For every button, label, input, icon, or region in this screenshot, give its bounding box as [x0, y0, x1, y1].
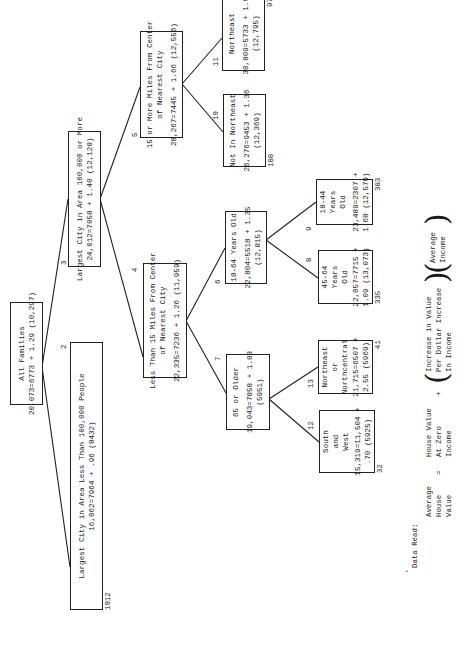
node-4-under-15-miles: Less Than 15 Miles From Center of Neares… — [143, 263, 187, 378]
node-equation: 1.68 (12,579) — [361, 172, 371, 231]
node-count: 1012 — [104, 592, 112, 610]
node-label: 15 or More Miles From Center — [145, 21, 155, 149]
node-2-city-under-100k: Largest City in Area Less Than 100,000 P… — [70, 342, 103, 610]
node-equation: 2.55 (5969) — [361, 342, 371, 392]
node-equation: 24,012=7058 + 1.40 (12,128) — [85, 137, 95, 260]
node-label: Less Than 15 Miles From Center — [148, 252, 158, 389]
node-count: 32 — [376, 464, 384, 473]
node-equation: (12,369) — [252, 112, 262, 148]
node-9-age-18-44: 18-44 Years Old 23,489=2307 + 1.68 (12,5… — [316, 179, 373, 225]
footnote-marker: * — [404, 569, 414, 573]
edge-5-10 — [182, 84, 223, 132]
node-number: 2 — [60, 345, 68, 349]
node-number: 6 — [214, 280, 222, 284]
node-label: 45-64 — [320, 266, 330, 289]
open-paren-icon: ( — [422, 372, 452, 384]
node-label: Northeast — [320, 347, 330, 388]
node-equation: 28,267=7445 + 1.66 (12,556) — [169, 23, 179, 146]
node-number: 12 — [307, 421, 315, 430]
legend-term-average-income: Average Income — [428, 232, 448, 263]
node-label: 18-64 Years Old — [229, 213, 239, 281]
node-label: of Nearest City — [158, 286, 168, 354]
node-12-south-west: South and West 15,319=11,504 + .70 (5925… — [319, 410, 375, 473]
node-count: 383 — [374, 178, 382, 191]
edge-3-4 — [100, 199, 143, 357]
node-label: 65 or Older — [231, 367, 241, 417]
node-count: 188 — [267, 154, 275, 167]
node-label: Largest City in Area Less Than 100,000 P… — [77, 373, 87, 578]
node-label: Northeast — [227, 13, 237, 54]
node-number: 10 — [212, 111, 220, 120]
edge-4-6 — [186, 248, 225, 321]
node-10-not-northeast: Not In Northeast 26,276=9453 + 1.36 (12,… — [223, 94, 266, 167]
edge-3-5 — [100, 87, 140, 199]
node-6-age-18-64: 18-64 Years Old 22,804=5518 + 1.35 (12,8… — [225, 211, 267, 284]
node-label: Largest City in Area 100,000 or More — [75, 117, 85, 281]
node-7-age-65-older: 65 or Older 19,043=7858 + 1.88 (5951) — [226, 354, 270, 430]
tree-diagram: All Families 20,073=6773 + 1.29 (10,297)… — [0, 0, 473, 667]
node-count: 97 — [266, 0, 274, 7]
node-label: Not In Northeast — [228, 94, 238, 167]
node-equation: 1.09 (13,073) — [361, 247, 371, 306]
node-equation: 22,335=7236 + 1.26 (11,959) — [172, 259, 182, 382]
node-equation: 21,715=6507 + — [351, 337, 361, 396]
node-5-15-miles-or-more: 15 or More Miles From Center of Nearest … — [140, 31, 183, 138]
node-equation: 30,809=5733 + 1.96 — [241, 0, 251, 75]
node-13-northeast-northcentral: Northeast or Northcentral 21,715=6507 + … — [318, 340, 373, 394]
node-number: 13 — [307, 379, 315, 388]
legend-plus: + — [434, 392, 444, 396]
node-11-northeast: Northeast 30,809=5733 + 1.96 (12,795) — [222, 0, 265, 71]
node-8-age-45-64: 45-64 Years Old 22,057=7715 + 1.09 (13,0… — [318, 250, 373, 304]
node-number: 5 — [131, 133, 139, 137]
node-label: Northcentral — [340, 340, 350, 395]
node-equation: 22,804=5518 + 1.35 — [243, 206, 253, 288]
node-3-city-100k-or-more: Largest City in Area 100,000 or More 24,… — [68, 131, 101, 267]
legend-term-increase-per-dollar: Increase in Value Per Dollar Increase In… — [424, 288, 454, 372]
node-count: 41 — [374, 340, 382, 349]
node-label: of Nearest City — [155, 50, 165, 118]
node-label: West — [341, 432, 351, 450]
node-label: South — [321, 430, 331, 453]
edge-1-3 — [42, 199, 68, 367]
node-equation: 22,057=7715 + — [351, 247, 361, 306]
node-label: Years — [330, 266, 340, 289]
node-equation: 20,073=6773 + 1.29 (10,297) — [27, 292, 37, 415]
node-equation: 23,489=2307 + — [351, 172, 361, 231]
node-label: Old — [340, 270, 350, 284]
legend-term-average-house-value: Average House Value — [424, 486, 454, 517]
node-number: 7 — [214, 357, 222, 361]
node-label: Old — [338, 195, 348, 209]
node-equation: 19,043=7858 + 1.88 — [245, 351, 255, 433]
node-label: All Families — [17, 326, 27, 381]
node-number: 4 — [131, 268, 139, 272]
node-number: 3 — [60, 261, 68, 265]
node-number: 9 — [305, 227, 313, 231]
node-number: 8 — [305, 258, 313, 262]
legend-equals: = — [434, 471, 444, 475]
node-label: or — [330, 362, 340, 371]
legend-title: Data Read: — [410, 524, 420, 568]
node-equation: 16,062=7964 + .96 (8432) — [87, 421, 97, 530]
node-equation: (12,795) — [251, 15, 261, 51]
edge-6-9 — [266, 202, 316, 240]
node-1-all-families: All Families 20,073=6773 + 1.29 (10,297) — [10, 302, 43, 405]
node-equation: (5951) — [255, 378, 265, 405]
node-equation: 26,276=9453 + 1.36 — [242, 89, 252, 171]
node-equation: (12,815) — [253, 229, 263, 265]
edge-1-2 — [42, 367, 70, 567]
node-label: 18-44 — [318, 191, 328, 214]
node-count: 335 — [374, 291, 382, 304]
close-paren-icon: ) — [422, 213, 452, 225]
node-label: and — [331, 435, 341, 449]
open-paren-icon: ( — [422, 262, 452, 274]
node-number: 11 — [212, 57, 220, 66]
legend-term-zero-income: House Value At Zero Income — [424, 408, 454, 457]
node-label: Years — [328, 191, 338, 214]
node-equation: 15,319=11,504 + — [353, 407, 363, 475]
node-equation: .70 (5925) — [363, 419, 373, 465]
